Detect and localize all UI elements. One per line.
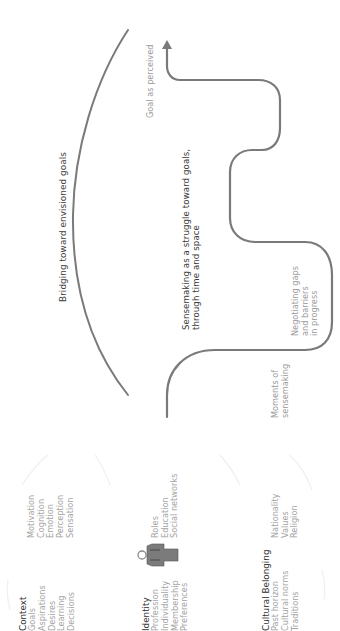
identity-related: Roles Education Social networks bbox=[151, 474, 180, 538]
identity-group: Identity Profession Individuality Member… bbox=[141, 580, 190, 631]
arrow-head-icon bbox=[162, 40, 172, 49]
sensemaking-diagram: Bridging toward envisioned goals Sensema… bbox=[0, 0, 340, 631]
context-group: Context Goals Aspirations Desires Learni… bbox=[18, 585, 77, 631]
goal-label: Goal as perceived bbox=[146, 45, 156, 118]
cultural-related: Nationality Values Religion bbox=[271, 494, 300, 538]
negotiating-label: Negotiating gaps and barriers in progres… bbox=[291, 266, 320, 336]
path-label: Sensemaking as a struggle toward goals, … bbox=[181, 149, 201, 330]
cultural-group: Cultural Belonging Past horizon Cultural… bbox=[261, 550, 300, 631]
person-icon bbox=[138, 544, 178, 566]
moments-label: Moments of sensemaking bbox=[271, 364, 290, 418]
envisioned-goals-arc bbox=[73, 30, 128, 395]
context-related: Motivation Cognition Emotion Perception … bbox=[27, 495, 75, 538]
arc-label: Bridging toward envisioned goals bbox=[58, 152, 68, 302]
